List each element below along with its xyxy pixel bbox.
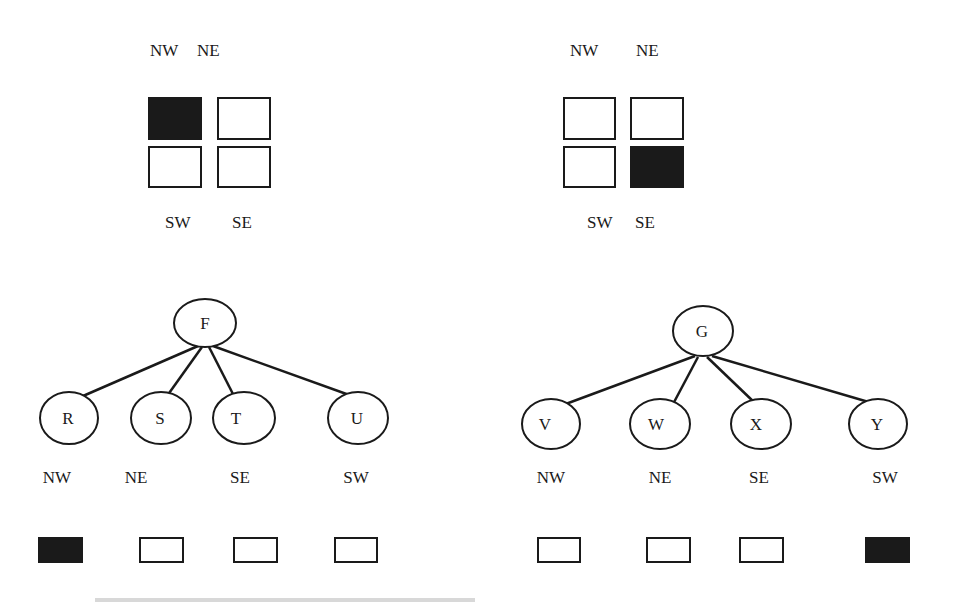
cell-ne-empty: [631, 98, 683, 139]
node-u-label: U: [351, 409, 363, 428]
label-y-quadrant: SW: [872, 468, 898, 487]
leaf-box-y-filled: [866, 538, 909, 562]
edge-g-y: [712, 356, 872, 403]
leaf-box-x-empty: [740, 538, 783, 562]
grid-label-sw: SW: [587, 213, 613, 232]
cell-sw-empty: [564, 147, 615, 187]
cell-se-filled: [631, 147, 683, 187]
label-w-quadrant: NE: [649, 468, 672, 487]
cell-ne-empty: [218, 98, 270, 139]
node-w-label: W: [648, 415, 665, 434]
node-x-label: X: [750, 415, 762, 434]
edge-f-u: [213, 346, 352, 396]
leaf-box-r-filled: [39, 538, 82, 562]
edge-f-t: [209, 347, 234, 396]
node-v-label: V: [539, 415, 552, 434]
left-tree-quadrant-labels: NW NE SE SW: [43, 468, 370, 487]
edge-f-s: [167, 347, 202, 396]
leaf-box-w-empty: [647, 538, 690, 562]
cell-se-empty: [218, 147, 270, 187]
leaf-box-t-empty: [234, 538, 277, 562]
node-t-label: T: [231, 409, 242, 428]
grid-label-sw: SW: [165, 213, 191, 232]
right-tree: G V W X Y: [522, 306, 907, 449]
clipped-caption-fragment: [95, 598, 475, 602]
left-leaf-boxes: [39, 538, 377, 562]
right-leaf-boxes: [538, 538, 909, 562]
label-v-quadrant: NW: [537, 468, 566, 487]
label-t-quadrant: SE: [230, 468, 250, 487]
leaf-box-v-empty: [538, 538, 580, 562]
edge-g-x: [707, 357, 756, 404]
cell-sw-empty: [149, 147, 201, 187]
node-y-label: Y: [871, 415, 883, 434]
grid-label-nw: NW: [570, 41, 599, 60]
grid-label-ne: NE: [197, 41, 220, 60]
node-r-label: R: [62, 409, 74, 428]
right-tree-edges: [563, 356, 872, 406]
leaf-box-u-empty: [335, 538, 377, 562]
grid-label-ne: NE: [636, 41, 659, 60]
edge-f-r: [83, 346, 198, 396]
cell-nw-filled: [149, 98, 201, 139]
right-tree-quadrant-labels: NW NE SE SW: [537, 468, 899, 487]
left-tree-edges: [83, 346, 352, 396]
quadtree-figure: NW NE SW SE NW NE SW SE F R S T U: [0, 0, 953, 602]
label-x-quadrant: SE: [749, 468, 769, 487]
left-quadrant-grid: NW NE SW SE: [149, 41, 270, 232]
cell-nw-empty: [564, 98, 615, 139]
node-f-label: F: [200, 314, 209, 333]
leaf-box-s-empty: [140, 538, 183, 562]
left-tree: F R S T U: [40, 299, 388, 444]
label-r-quadrant: NW: [43, 468, 72, 487]
grid-label-se: SE: [232, 213, 252, 232]
node-g-label: G: [696, 322, 708, 341]
label-s-quadrant: NE: [125, 468, 148, 487]
node-t: [213, 392, 275, 444]
grid-label-nw: NW: [150, 41, 179, 60]
label-u-quadrant: SW: [343, 468, 369, 487]
node-s-label: S: [155, 409, 164, 428]
right-quadrant-grid: NW NE SW SE: [564, 41, 683, 232]
grid-label-se: SE: [635, 213, 655, 232]
